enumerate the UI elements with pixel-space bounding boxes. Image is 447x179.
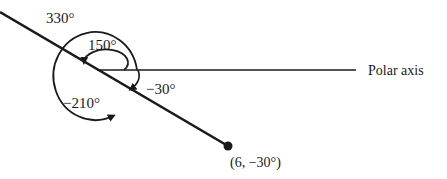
- terminal-ray: [0, 12, 228, 146]
- polar-diagram: 330° 150° −30° −210° Polar axis (6, −30°…: [0, 0, 447, 179]
- point-label: (6, −30°): [230, 155, 281, 171]
- point-marker: [224, 142, 233, 151]
- label-330: 330°: [46, 10, 75, 26]
- label-150: 150°: [88, 37, 117, 53]
- polar-axis-label: Polar axis: [368, 63, 424, 78]
- arc-minus-30: [131, 70, 139, 89]
- label-minus-30: −30°: [146, 81, 175, 97]
- label-minus-210: −210°: [63, 95, 100, 111]
